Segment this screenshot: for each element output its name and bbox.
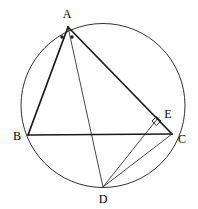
segment-BC bbox=[28, 134, 172, 135]
equal-angle-dot-2 bbox=[70, 35, 73, 38]
vertex-label-D: D bbox=[99, 193, 108, 205]
vertex-label-C: C bbox=[178, 133, 186, 145]
segment-DC bbox=[103, 134, 172, 187]
geometry-canvas bbox=[0, 0, 198, 209]
equal-angle-dot-1 bbox=[60, 35, 63, 38]
vertex-label-E: E bbox=[164, 108, 171, 120]
geometry-figure: A B C D E bbox=[0, 0, 198, 209]
circumcircle bbox=[21, 24, 185, 188]
segment-DE bbox=[103, 118, 158, 187]
vertex-label-A: A bbox=[63, 8, 72, 20]
vertex-label-B: B bbox=[13, 130, 21, 142]
segment-AB bbox=[28, 27, 68, 135]
segment-AD bbox=[68, 27, 103, 187]
